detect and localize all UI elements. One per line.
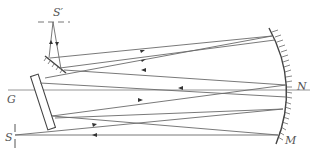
grating [31, 74, 56, 130]
label-g: G [7, 93, 16, 106]
flat-mirror [44, 56, 66, 73]
label-s: S [5, 131, 13, 144]
spectrometer-diagram: S′ G S N M [0, 0, 313, 158]
arrow-icon [92, 133, 97, 137]
arrow-icon [92, 123, 97, 127]
arrow-icon [178, 86, 183, 90]
label-m: M [284, 134, 297, 147]
arrow-icon [141, 68, 146, 72]
label-n: N [296, 80, 307, 93]
arrow-icon [55, 42, 59, 46]
ray-arrows [92, 50, 183, 137]
arrow-icon [49, 40, 53, 44]
label-s-prime: S′ [53, 6, 64, 19]
rays [15, 36, 286, 135]
arrow-icon [138, 98, 143, 102]
arrow-icon [140, 50, 145, 53]
